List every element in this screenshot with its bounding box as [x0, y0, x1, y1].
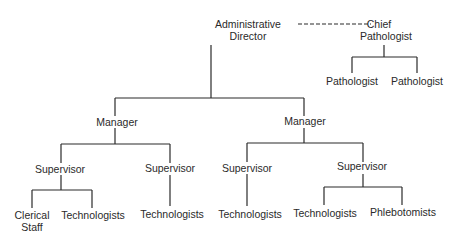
supervisor-node: Supervisor [222, 162, 272, 174]
org-chart: Administrative Director Chief Pathologis… [0, 0, 464, 240]
node-label: Staff [14, 221, 49, 233]
phlebotomists-node: Phlebotomists [370, 206, 436, 218]
node-label: Pathologist [360, 30, 412, 42]
pathologist-node: Pathologist [391, 75, 443, 87]
supervisor-node: Supervisor [35, 163, 85, 175]
technologists-node: Technologists [293, 207, 357, 219]
manager-node: Manager [284, 115, 325, 127]
admin-director-node: Administrative Director [215, 18, 281, 42]
node-label: Chief [360, 18, 412, 30]
chief-pathologist-node: Chief Pathologist [360, 18, 412, 42]
clerical-staff-node: Clerical Staff [14, 209, 49, 233]
technologists-node: Technologists [140, 208, 204, 220]
node-label: Administrative [215, 18, 281, 30]
technologists-node: Technologists [61, 209, 125, 221]
pathologist-node: Pathologist [326, 75, 378, 87]
supervisor-node: Supervisor [337, 160, 387, 172]
technologists-node: Technologists [218, 208, 282, 220]
manager-node: Manager [96, 116, 137, 128]
node-label: Director [215, 30, 281, 42]
node-label: Clerical [14, 209, 49, 221]
supervisor-node: Supervisor [145, 162, 195, 174]
